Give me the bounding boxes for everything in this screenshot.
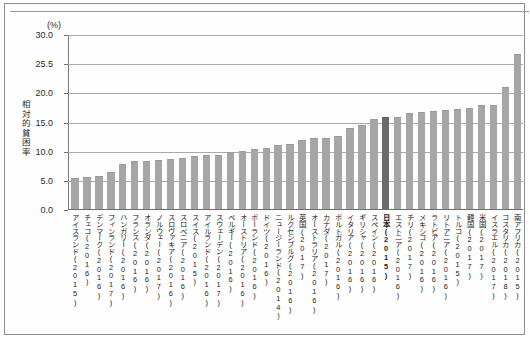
- x-axis-labels: アイスランド(2015)チェコ(2016)デンマーク(2016)フィンランド(2…: [69, 213, 523, 335]
- bar-slot: [332, 35, 344, 209]
- x-label-slot: アイルランド(2016): [200, 213, 212, 335]
- x-label-slot: フィンランド(2017): [105, 213, 117, 335]
- y-tick-label: 25.5: [19, 59, 53, 69]
- y-tick-mark: [64, 181, 68, 182]
- bar-slot: [153, 35, 165, 209]
- x-tick-label: カナダ(2017): [322, 213, 329, 286]
- bar: [454, 109, 461, 209]
- bar: [119, 164, 126, 210]
- x-label-slot: スロベニア(2016): [177, 213, 189, 335]
- x-tick-label: オーストリア(2016): [239, 213, 246, 307]
- bar-slot: [117, 35, 129, 209]
- figure-top-rule: [10, 11, 529, 12]
- x-label-slot: スペイン(2016): [368, 213, 380, 335]
- bar: [203, 155, 210, 209]
- x-label-slot: イスラエル(2017): [487, 213, 499, 335]
- x-tick-label: フランス(2016): [131, 213, 138, 293]
- bar: [107, 172, 114, 209]
- bar-slot: [69, 35, 81, 209]
- bar: [179, 158, 186, 209]
- bar-series: [69, 35, 523, 209]
- x-tick-label: ニュージーランド(2014): [274, 213, 281, 320]
- bar-slot: [499, 35, 511, 209]
- bar: [502, 87, 509, 209]
- bar: [227, 152, 234, 209]
- bar-slot: [440, 35, 452, 209]
- bar: [358, 125, 365, 209]
- bar-slot: [320, 35, 332, 209]
- bar: [490, 105, 497, 209]
- x-tick-label: ラトビア(2016): [430, 213, 437, 293]
- bar: [143, 161, 150, 209]
- bar-slot: [308, 35, 320, 209]
- x-tick-label: アイスランド(2015): [71, 213, 78, 307]
- bar-highlighted: [382, 117, 389, 209]
- bar-slot: [380, 35, 392, 209]
- x-label-slot: リトアニア(2016): [440, 213, 452, 335]
- x-tick-label: ハンガリー(2016): [119, 213, 126, 300]
- bar-slot: [404, 35, 416, 209]
- x-label-slot: 南アフリカ(2015): [511, 213, 523, 335]
- x-label-slot: 日本(2015): [380, 213, 392, 335]
- x-tick-label: ポーランド(2016): [251, 213, 258, 300]
- bar-slot: [177, 35, 189, 209]
- bar: [286, 144, 293, 209]
- x-label-slot: スイス(2015): [189, 213, 201, 335]
- x-axis-line: [68, 209, 523, 210]
- x-tick-label: チリ(2017): [406, 213, 413, 279]
- x-label-slot: チリ(2017): [404, 213, 416, 335]
- y-tick-label: 10.0: [19, 147, 53, 157]
- x-tick-label: ギリシャ(2016): [358, 213, 365, 293]
- x-tick-label: スイス(2015): [191, 213, 198, 286]
- bar-slot: [356, 35, 368, 209]
- figure-frame: (%) 相対的貧困率 30.025.520.015.010.05.00.0 アイ…: [4, 3, 525, 335]
- x-label-slot: カナダ(2017): [320, 213, 332, 335]
- y-tick-mark: [64, 64, 68, 65]
- x-tick-label: スロベニア(2016): [179, 213, 186, 300]
- bar: [71, 178, 78, 209]
- bar: [394, 117, 401, 209]
- bar: [274, 145, 281, 209]
- bar: [191, 156, 198, 209]
- bar-slot: [428, 35, 440, 209]
- x-label-slot: ノルウェー(2017): [153, 213, 165, 335]
- bar: [131, 161, 138, 209]
- x-label-slot: メキシコ(2016): [416, 213, 428, 335]
- x-tick-label: ドイツ(2016): [263, 213, 270, 286]
- x-label-slot: スロヴァキア(2016): [165, 213, 177, 335]
- bar: [466, 108, 473, 210]
- x-tick-label: イタリア(2016): [346, 213, 353, 293]
- x-label-slot: チェコ(2016): [81, 213, 93, 335]
- y-tick-mark: [64, 152, 68, 153]
- y-axis-unit-label: (%): [47, 20, 61, 30]
- bar-slot: [475, 35, 487, 209]
- x-tick-label: ポルトガル(2016): [334, 213, 341, 300]
- bar-slot: [224, 35, 236, 209]
- bar: [167, 159, 174, 209]
- bar-slot: [272, 35, 284, 209]
- y-tick-label: 20.0: [19, 88, 53, 98]
- bar-slot: [260, 35, 272, 209]
- bar: [406, 113, 413, 209]
- plot-area: 30.025.520.015.010.05.00.0: [68, 35, 523, 210]
- x-tick-label: アイルランド(2016): [203, 213, 210, 307]
- bar-slot: [212, 35, 224, 209]
- bar: [155, 160, 162, 209]
- x-label-slot: ベルギー(2016): [224, 213, 236, 335]
- x-tick-label: オランダ(2016): [143, 213, 150, 293]
- bar: [478, 105, 485, 209]
- x-label-slot: トルコ(2015): [452, 213, 464, 335]
- x-label-slot: オーストリア(2016): [236, 213, 248, 335]
- x-tick-label: リトアニア(2016): [442, 213, 449, 300]
- x-label-slot: ニュージーランド(2014): [272, 213, 284, 335]
- x-tick-label: 米国(2017): [478, 213, 485, 279]
- bar: [322, 138, 329, 209]
- x-tick-label: 南アフリカ(2015): [514, 213, 521, 300]
- bar: [310, 138, 317, 209]
- bar-slot: [105, 35, 117, 209]
- x-tick-label: 韓国(2017): [466, 213, 473, 279]
- x-label-slot: ハンガリー(2016): [117, 213, 129, 335]
- bar-slot: [236, 35, 248, 209]
- bar-slot: [189, 35, 201, 209]
- y-tick-label: 5.0: [19, 176, 53, 186]
